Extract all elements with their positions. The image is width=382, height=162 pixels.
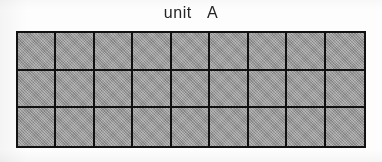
cell-grid xyxy=(16,31,366,148)
grid-cell[interactable] xyxy=(326,108,364,146)
grid-cell[interactable] xyxy=(287,33,325,71)
table-row xyxy=(18,33,364,71)
table-row xyxy=(18,71,364,109)
grid-cell[interactable] xyxy=(18,71,56,109)
grid-cell[interactable] xyxy=(326,71,364,109)
grid-container xyxy=(16,31,366,148)
grid-cell[interactable] xyxy=(95,108,133,146)
grid-cell[interactable] xyxy=(287,71,325,109)
grid-cell[interactable] xyxy=(133,71,171,109)
unit-a-grid-figure: unit A xyxy=(0,0,382,162)
grid-cell[interactable] xyxy=(56,33,94,71)
grid-cell[interactable] xyxy=(56,71,94,109)
figure-title: unit A xyxy=(0,3,382,23)
grid-cell[interactable] xyxy=(210,33,248,71)
grid-cell[interactable] xyxy=(95,33,133,71)
grid-cell[interactable] xyxy=(210,108,248,146)
grid-cell[interactable] xyxy=(249,108,287,146)
grid-cell[interactable] xyxy=(172,71,210,109)
grid-cell[interactable] xyxy=(326,33,364,71)
grid-cell[interactable] xyxy=(249,33,287,71)
grid-cell[interactable] xyxy=(287,108,325,146)
grid-cell[interactable] xyxy=(133,108,171,146)
grid-cell[interactable] xyxy=(172,108,210,146)
grid-cell[interactable] xyxy=(18,33,56,71)
grid-cell[interactable] xyxy=(172,33,210,71)
grid-cell[interactable] xyxy=(95,71,133,109)
grid-cell[interactable] xyxy=(18,108,56,146)
grid-cell[interactable] xyxy=(249,71,287,109)
grid-cell[interactable] xyxy=(133,33,171,71)
table-row xyxy=(18,108,364,146)
grid-cell[interactable] xyxy=(210,71,248,109)
grid-cell[interactable] xyxy=(56,108,94,146)
